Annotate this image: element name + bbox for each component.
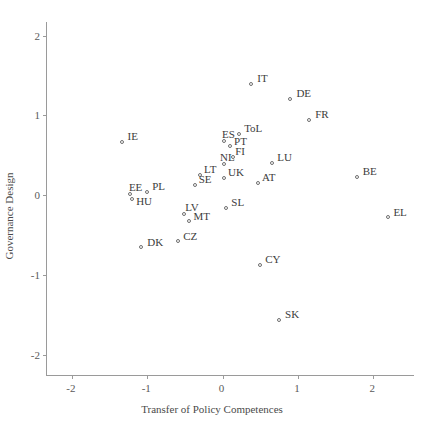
x-axis-tick-label: -2	[66, 383, 75, 394]
plot-area: ITDEFRToLESIEPTFINLLULTUKBEATSEPLEEHUSLL…	[47, 22, 414, 375]
data-point-label-mt: MT	[193, 211, 210, 222]
data-point-uk[interactable]	[222, 176, 226, 180]
y-axis-tick	[43, 195, 47, 196]
y-axis-tick-label: 2	[20, 30, 40, 41]
data-point-label-nl: NL	[220, 152, 235, 163]
data-point-hu[interactable]	[130, 197, 134, 201]
data-point-ie[interactable]	[120, 140, 124, 144]
x-axis-title: Transfer of Policy Competences	[0, 404, 424, 415]
data-point-label-ie: IE	[128, 131, 138, 142]
data-point-label-pl: PL	[152, 181, 165, 192]
data-point-sl[interactable]	[224, 206, 228, 210]
data-point-label-ee: EE	[129, 182, 142, 193]
data-point-mt[interactable]	[187, 219, 191, 223]
y-axis-tick-label: -1	[20, 270, 40, 281]
x-axis-tick	[72, 375, 73, 379]
x-axis-title-text: Transfer of Policy Competences	[141, 403, 283, 415]
data-point-label-sk: SK	[285, 309, 299, 320]
data-point-fr[interactable]	[307, 118, 311, 122]
data-point-label-tol: ToL	[244, 123, 262, 134]
data-point-label-dk: DK	[147, 237, 163, 248]
data-point-label-be: BE	[363, 166, 377, 177]
y-axis-title-text: Governance Design	[3, 172, 15, 259]
plot-frame: ITDEFRToLESIEPTFINLLULTUKBEATSEPLEEHUSLL…	[46, 22, 414, 376]
scatter-plot-figure: Governance Design ITDEFRToLESIEPTFINLLUL…	[0, 0, 424, 431]
data-point-label-es: ES	[222, 129, 235, 140]
data-point-label-cz: CZ	[183, 231, 197, 242]
y-axis-tick	[43, 355, 47, 356]
x-axis-tick	[298, 375, 299, 379]
data-point-pl[interactable]	[145, 190, 149, 194]
y-axis-tick-label: -2	[20, 350, 40, 361]
data-point-at[interactable]	[256, 181, 260, 185]
data-point-it[interactable]	[249, 82, 253, 86]
y-axis-tick	[43, 115, 47, 116]
data-point-cz[interactable]	[176, 239, 180, 243]
x-axis-tick	[223, 375, 224, 379]
data-point-label-it: IT	[257, 73, 267, 84]
data-point-label-fr: FR	[315, 109, 328, 120]
data-point-label-cy: CY	[265, 254, 280, 265]
data-point-pt[interactable]	[228, 144, 232, 148]
data-point-sk[interactable]	[277, 318, 281, 322]
data-point-label-at: AT	[262, 172, 275, 183]
data-point-label-el: EL	[393, 207, 406, 218]
x-axis-tick-label: -1	[142, 383, 151, 394]
y-axis-tick-label: 0	[20, 190, 40, 201]
data-point-label-sl: SL	[231, 197, 244, 208]
data-point-label-lu: LU	[277, 152, 292, 163]
x-axis-tick-label: 0	[219, 383, 225, 394]
data-point-lu[interactable]	[270, 161, 274, 165]
data-point-label-se: SE	[199, 174, 212, 185]
data-point-se[interactable]	[193, 183, 197, 187]
y-axis-tick	[43, 36, 47, 37]
x-axis-tick-label: 2	[370, 383, 376, 394]
y-axis-tick-label: 1	[20, 110, 40, 121]
y-axis-title: Governance Design	[2, 0, 16, 431]
data-point-label-uk: UK	[228, 167, 244, 178]
data-point-label-fi: FI	[235, 146, 245, 157]
data-point-label-de: DE	[296, 88, 311, 99]
x-axis-tick	[373, 375, 374, 379]
y-axis-tick	[43, 275, 47, 276]
x-axis-tick	[147, 375, 148, 379]
data-point-be[interactable]	[355, 175, 359, 179]
data-point-el[interactable]	[386, 215, 390, 219]
data-point-cy[interactable]	[258, 263, 262, 267]
data-point-dk[interactable]	[139, 245, 143, 249]
data-point-de[interactable]	[288, 97, 292, 101]
x-axis-tick-label: 1	[294, 383, 300, 394]
data-point-label-hu: HU	[136, 196, 152, 207]
